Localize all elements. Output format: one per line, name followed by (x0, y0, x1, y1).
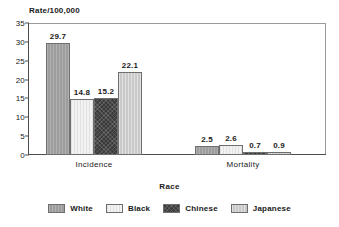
y-tick-label: 20 (3, 75, 25, 84)
y-tick-label: 0 (3, 151, 25, 160)
y-axis-title: Rate/100,000 (29, 6, 80, 15)
legend-item-chinese[interactable]: Chinese (163, 204, 218, 213)
bar-value-label: 15.2 (90, 87, 122, 96)
legend-item-japanese[interactable]: Japanese (231, 204, 291, 213)
bar-japanese-mortality (267, 152, 291, 155)
y-tick-label: 5 (3, 132, 25, 141)
legend-item-white[interactable]: White (48, 204, 93, 213)
legend-label: Chinese (185, 204, 218, 213)
legend-title: Race (0, 182, 339, 191)
legend-swatch-white (48, 204, 65, 213)
bar-black-incidence (70, 99, 94, 155)
x-category-label-mortality: Mortality (195, 160, 291, 169)
bar-value-label: 29.7 (42, 32, 74, 41)
bar-japanese-incidence (118, 72, 142, 155)
bar-value-label: 22.1 (114, 61, 146, 70)
legend-label: Japanese (253, 204, 291, 213)
x-category-label-incidence: Incidence (46, 160, 142, 169)
bar-chart: Rate/100,000 05101520253035 IncidenceMor… (0, 0, 339, 227)
legend-swatch-black (106, 204, 123, 213)
y-tick-label: 30 (3, 37, 25, 46)
bar-white-incidence (46, 43, 70, 155)
y-tick-label: 15 (3, 94, 25, 103)
bar-value-label: 0.9 (263, 141, 295, 150)
legend-label: White (70, 204, 93, 213)
bar-chinese-mortality (243, 152, 267, 155)
legend-label: Black (128, 204, 150, 213)
y-tick-label: 10 (3, 113, 25, 122)
bar-chinese-incidence (94, 98, 118, 155)
legend: WhiteBlackChineseJapanese (0, 204, 339, 213)
bar-white-mortality (195, 146, 219, 155)
y-tick-label: 25 (3, 56, 25, 65)
y-tick-label: 35 (3, 19, 25, 28)
legend-swatch-chinese (163, 204, 180, 213)
legend-item-black[interactable]: Black (106, 204, 150, 213)
legend-swatch-japanese (231, 204, 248, 213)
